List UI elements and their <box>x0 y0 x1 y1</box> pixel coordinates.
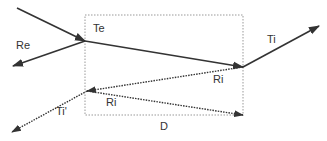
transmitted-ray-ti-prime <box>12 91 87 132</box>
transmitted-ray-te <box>85 41 243 67</box>
ray-diagram: Te Re Ti Ri Ri Ti' D <box>0 0 327 141</box>
label-te: Te <box>93 22 105 34</box>
transmitted-ray-ti <box>243 26 319 67</box>
label-re: Re <box>16 39 30 51</box>
label-d: D <box>160 120 168 132</box>
label-ti: Ti <box>267 33 276 45</box>
label-ti-prime: Ti' <box>56 105 67 117</box>
label-ri-upper: Ri <box>213 73 223 85</box>
label-ri-lower: Ri <box>106 96 116 108</box>
incident-ray <box>17 8 85 41</box>
